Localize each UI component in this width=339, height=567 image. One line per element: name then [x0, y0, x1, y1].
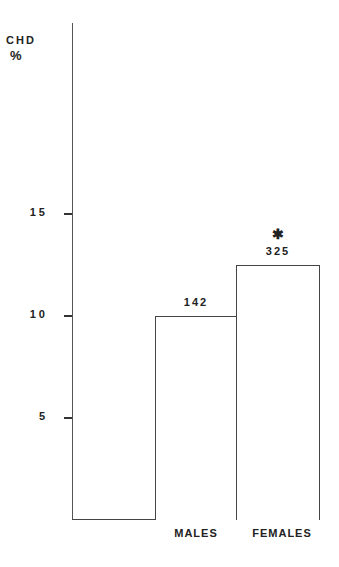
y-tick-label-15: 15 [8, 206, 48, 218]
y-axis-label-line2: % [10, 48, 22, 63]
bar-label-females: 325 [236, 245, 320, 257]
bar-females [236, 265, 320, 520]
y-axis-label-line1: CHD [6, 32, 36, 48]
category-label-males: MALES [150, 527, 242, 539]
category-label-females: FEMALES [236, 527, 328, 539]
y-tick-label-5: 5 [8, 410, 48, 422]
significance-star-icon: ✱ [236, 226, 320, 242]
y-tick-5 [64, 417, 72, 419]
y-tick-label-10: 10 [8, 308, 48, 320]
y-axis-line [72, 23, 73, 520]
y-tick-10 [64, 315, 72, 317]
bar-label-males: 142 [155, 296, 237, 308]
bar-males [155, 316, 237, 520]
y-tick-15 [64, 213, 72, 215]
